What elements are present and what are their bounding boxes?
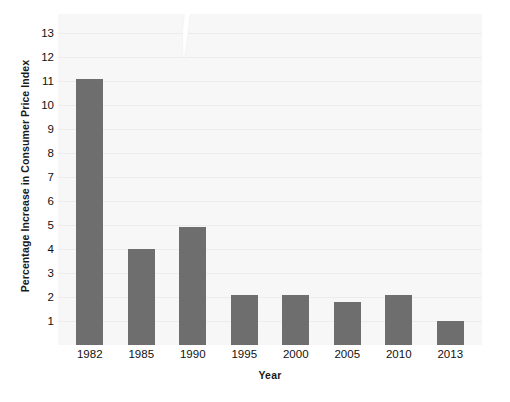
x-axis-tick-label: 1982 [64, 348, 116, 366]
bar-slot [425, 14, 477, 345]
y-axis-tick-label: 5 [30, 219, 54, 231]
bar-slot [219, 14, 271, 345]
bar-slot [373, 14, 425, 345]
y-axis-tick-label: 10 [30, 99, 54, 111]
y-axis-tick-label: 3 [30, 267, 54, 279]
x-axis-tick-label: 1990 [167, 348, 219, 366]
bar-series [58, 14, 482, 345]
y-axis-tick-label: 8 [30, 147, 54, 159]
y-axis-tick-label: 13 [30, 27, 54, 39]
bar-1982[interactable] [76, 79, 103, 345]
x-axis-tick-label: 2000 [270, 348, 322, 366]
x-axis-tick-label: 1985 [116, 348, 168, 366]
bar-slot [270, 14, 322, 345]
bar-2000[interactable] [282, 295, 309, 345]
bar-slot [116, 14, 168, 345]
y-axis-tick-label: 4 [30, 243, 54, 255]
y-axis-tick-label: 7 [30, 171, 54, 183]
x-axis-tick-label: 2013 [425, 348, 477, 366]
bar-1990[interactable] [179, 227, 206, 345]
x-axis-tick-label: 2010 [373, 348, 425, 366]
y-axis-tick-label: 12 [30, 51, 54, 63]
x-axis-tick-labels: 19821985199019952000200520102013 [58, 348, 482, 366]
y-axis-tick-label: 9 [30, 123, 54, 135]
bar-chart-figure: Percentage Increase in Consumer Price In… [0, 0, 510, 402]
y-axis-tick-labels: 13121110987654321 [30, 12, 54, 344]
bar-2005[interactable] [334, 302, 361, 345]
x-axis-tick-label: 2005 [322, 348, 374, 366]
bar-slot [64, 14, 116, 345]
bar-slot [322, 14, 374, 345]
bar-2010[interactable] [385, 295, 412, 345]
plot-area [58, 14, 482, 345]
bar-1985[interactable] [128, 249, 155, 345]
y-axis-tick-label: 1 [30, 315, 54, 327]
x-axis-title: Year [58, 369, 482, 381]
bar-2013[interactable] [437, 321, 464, 345]
bar-1995[interactable] [231, 295, 258, 345]
x-axis-tick-label: 1995 [219, 348, 271, 366]
y-axis-tick-label: 11 [30, 75, 54, 87]
bar-slot [167, 14, 219, 345]
y-axis-tick-label: 6 [30, 195, 54, 207]
y-axis-tick-label: 2 [30, 291, 54, 303]
